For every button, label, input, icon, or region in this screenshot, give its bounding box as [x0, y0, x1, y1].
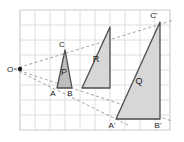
triangle-label-p: P — [61, 67, 67, 77]
vertex-points-layer — [18, 67, 22, 71]
vertex-label-c-prime: C' — [150, 11, 158, 20]
triangle-label-r: R — [93, 54, 100, 64]
triangle-q — [116, 22, 160, 119]
figure-canvas: PABCRQA'B'C'O — [0, 0, 184, 142]
centre-point-label: O — [7, 65, 13, 74]
vertex-label-b: B — [67, 89, 72, 98]
vertex-label-a: A — [50, 89, 56, 98]
triangles-layer — [57, 22, 160, 119]
geometry-diagram: PABCRQA'B'C'O — [0, 0, 184, 142]
centre-point-dot — [18, 67, 22, 71]
vertex-label-b-prime: B' — [155, 121, 162, 130]
vertex-label-c: C — [59, 40, 65, 49]
vertex-label-a-prime: A' — [109, 121, 116, 130]
triangle-label-q: Q — [135, 76, 142, 86]
